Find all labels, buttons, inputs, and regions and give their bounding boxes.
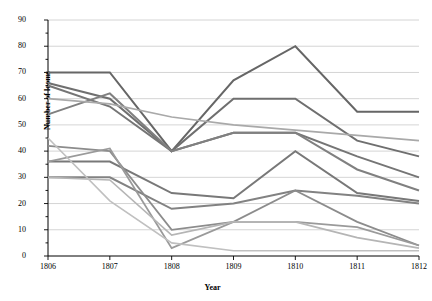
data-series-group (48, 46, 419, 251)
series-line (48, 177, 419, 248)
gridlines (48, 20, 419, 256)
series-line (48, 83, 419, 156)
